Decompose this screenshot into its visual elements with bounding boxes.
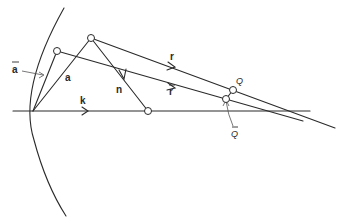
label-n: n bbox=[116, 84, 122, 95]
label-r-bar: r bbox=[169, 86, 173, 97]
curved-surface-arc bbox=[30, 8, 66, 216]
node-a-bar bbox=[54, 48, 61, 55]
node-q bbox=[230, 87, 237, 94]
node-n bbox=[145, 108, 152, 115]
ray-r bbox=[91, 38, 335, 128]
q-bar-pointer bbox=[226, 101, 233, 126]
vector-geometry-diagram: a a n k r r Q Q bbox=[0, 0, 345, 224]
node-a bbox=[88, 35, 95, 42]
label-a: a bbox=[65, 72, 71, 83]
label-q: Q bbox=[236, 76, 243, 86]
label-q-bar: Q bbox=[231, 129, 238, 139]
node-q-bar bbox=[223, 96, 230, 103]
vector-a-bar bbox=[33, 51, 57, 111]
label-a-bar: a bbox=[12, 64, 18, 75]
label-r: r bbox=[170, 51, 174, 62]
label-k: k bbox=[80, 95, 86, 106]
a-bar-pointer bbox=[22, 71, 43, 75]
